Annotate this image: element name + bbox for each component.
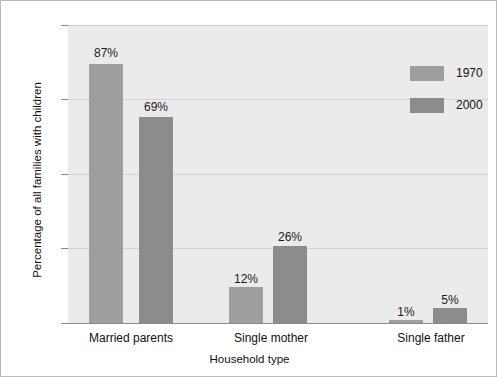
bar-married-parents-2000 bbox=[139, 117, 173, 323]
plot-area: 1970 2000 bbox=[68, 25, 488, 323]
bar-single-mother-2000 bbox=[273, 246, 307, 324]
y-tick-mark-100 bbox=[61, 25, 68, 26]
gridline-100 bbox=[68, 25, 488, 26]
legend-label-1970: 1970 bbox=[456, 66, 483, 80]
x-axis-title: Household type bbox=[1, 353, 497, 365]
bar-chart-figure: 1970 2000 100 75 50 25 0 Percentage of a… bbox=[0, 0, 497, 377]
legend-item-2000: 2000 bbox=[410, 97, 483, 113]
x-axis-label-married-parents: Married parents bbox=[89, 331, 173, 345]
bar-value-single-father-1970: 1% bbox=[397, 305, 414, 319]
legend-swatch-1970-icon bbox=[410, 66, 444, 81]
bar-value-married-parents-1970: 87% bbox=[94, 46, 118, 60]
legend-label-2000: 2000 bbox=[456, 98, 483, 112]
bar-value-single-mother-1970: 12% bbox=[234, 272, 258, 286]
legend-swatch-2000-icon bbox=[410, 98, 444, 113]
legend-item-1970: 1970 bbox=[410, 65, 483, 81]
bar-single-father-2000 bbox=[433, 308, 467, 323]
bar-value-married-parents-2000: 69% bbox=[144, 100, 168, 114]
legend: 1970 2000 bbox=[410, 65, 483, 129]
gridline-50 bbox=[68, 174, 488, 175]
bar-single-mother-1970 bbox=[229, 287, 263, 323]
y-tick-mark-75 bbox=[61, 99, 68, 100]
y-tick-mark-50 bbox=[61, 174, 68, 175]
y-axis-title: Percentage of all families with children bbox=[31, 35, 43, 325]
y-tick-mark-25 bbox=[61, 248, 68, 249]
x-axis-line bbox=[68, 323, 488, 324]
x-axis-label-single-father: Single father bbox=[397, 331, 464, 345]
bar-married-parents-1970 bbox=[89, 64, 123, 323]
y-tick-mark-0 bbox=[61, 323, 68, 324]
bar-value-single-mother-2000: 26% bbox=[278, 230, 302, 244]
bar-value-single-father-2000: 5% bbox=[441, 293, 458, 307]
x-axis-label-single-mother: Single mother bbox=[234, 331, 308, 345]
